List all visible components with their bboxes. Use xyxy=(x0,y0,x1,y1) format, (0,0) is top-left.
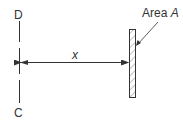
arrowhead-left-icon xyxy=(20,60,28,65)
label-area-prefix: Area xyxy=(142,6,171,20)
label-area-symbol: A xyxy=(170,6,179,20)
diagram-canvas: D C x Area A xyxy=(0,0,183,129)
label-area: Area A xyxy=(142,6,179,20)
label-c: C xyxy=(14,106,23,120)
label-d: D xyxy=(14,8,23,22)
area-leader-line xyxy=(137,22,158,45)
label-distance-x: x xyxy=(71,48,79,62)
arrowhead-right-icon xyxy=(121,60,129,65)
plate-area xyxy=(130,30,136,98)
